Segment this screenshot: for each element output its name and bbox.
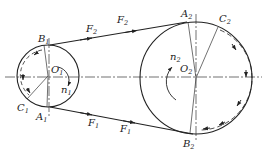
large-pulley-active-arc (200, 30, 252, 130)
label-f1-b: F1 (119, 123, 131, 136)
rotation-n2-arrow (166, 67, 176, 100)
arc-arrow-6 (237, 100, 241, 106)
arc-arrow-7 (219, 122, 225, 125)
arc-arrow-8 (203, 128, 210, 129)
label-o2: O2 (180, 63, 192, 76)
radius-o1-c1 (27, 76, 48, 99)
label-a2: A2 (180, 8, 192, 21)
radius-o2-c2 (196, 27, 218, 78)
label-f2-a: F2 (85, 23, 97, 36)
radius-o2-b2 (190, 78, 196, 133)
arc-arrow-3 (27, 88, 30, 93)
force-arrow-f2-a (80, 38, 92, 40)
belt-drive-diagram: B1 A1 C1 O1 n1 A2 B2 C2 O2 n2 F2 F2 F1 F… (0, 0, 267, 149)
force-arrow-f1-a (80, 113, 92, 115)
label-b1: B1 (37, 33, 50, 46)
force-arrow-f2-b (125, 31, 137, 33)
label-f1-a: F1 (87, 117, 99, 130)
label-c2: C2 (219, 13, 231, 26)
arc-arrow-4 (232, 44, 236, 50)
label-b2: B2 (182, 138, 195, 149)
radius-o1-b1 (44, 45, 48, 76)
belt-tight-side (50, 22, 187, 45)
label-o1: O1 (51, 64, 63, 77)
label-n2: n2 (170, 51, 181, 64)
radius-o1-a1 (47, 76, 48, 107)
label-c1: C1 (17, 102, 29, 115)
label-a1: A1 (35, 111, 47, 124)
label-f2-b: F2 (116, 14, 128, 27)
label-n1: n1 (61, 84, 72, 97)
